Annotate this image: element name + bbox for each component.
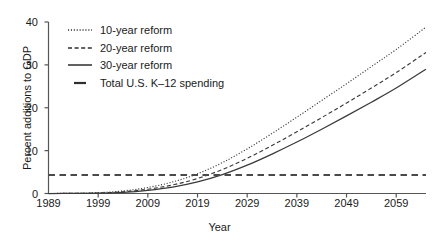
chart-figure: Percent additions to GDP Year 1989199920… bbox=[0, 0, 439, 242]
x-tick-label-2019: 2019 bbox=[185, 197, 209, 209]
y-tick-label-10: 10 bbox=[12, 145, 38, 157]
legend-line-sample-long-dashed-icon bbox=[68, 76, 94, 90]
legend-line-sample-dotted-icon bbox=[68, 23, 94, 37]
legend-item: 30-year reform bbox=[68, 57, 172, 73]
y-tick-label-20: 20 bbox=[12, 102, 38, 114]
x-tick-label-2029: 2029 bbox=[235, 197, 259, 209]
legend-label: 20-year reform bbox=[100, 42, 172, 54]
y-tick-label-30: 30 bbox=[12, 59, 38, 71]
x-tick-label-1999: 1999 bbox=[86, 197, 110, 209]
legend-label: 30-year reform bbox=[100, 59, 172, 71]
y-tick-label-40: 40 bbox=[12, 16, 38, 28]
legend-item: Total U.S. K–12 spending bbox=[68, 75, 224, 91]
legend-label: 10-year reform bbox=[100, 24, 172, 36]
x-tick-label-2049: 2049 bbox=[334, 197, 358, 209]
legend-label: Total U.S. K–12 spending bbox=[100, 77, 224, 89]
legend-line-sample-solid-icon bbox=[68, 58, 94, 72]
x-tick-label-2039: 2039 bbox=[285, 197, 309, 209]
x-axis-label: Year bbox=[0, 221, 439, 233]
legend-item: 10-year reform bbox=[68, 22, 172, 38]
x-tick-label-1989: 1989 bbox=[36, 197, 60, 209]
legend-line-sample-dashed-icon bbox=[68, 41, 94, 55]
x-tick-label-2009: 2009 bbox=[136, 197, 160, 209]
y-tick-label-0: 0 bbox=[12, 188, 38, 200]
x-tick-label-2059: 2059 bbox=[384, 197, 408, 209]
legend-item: 20-year reform bbox=[68, 40, 172, 56]
chart-plot-area bbox=[0, 0, 439, 242]
